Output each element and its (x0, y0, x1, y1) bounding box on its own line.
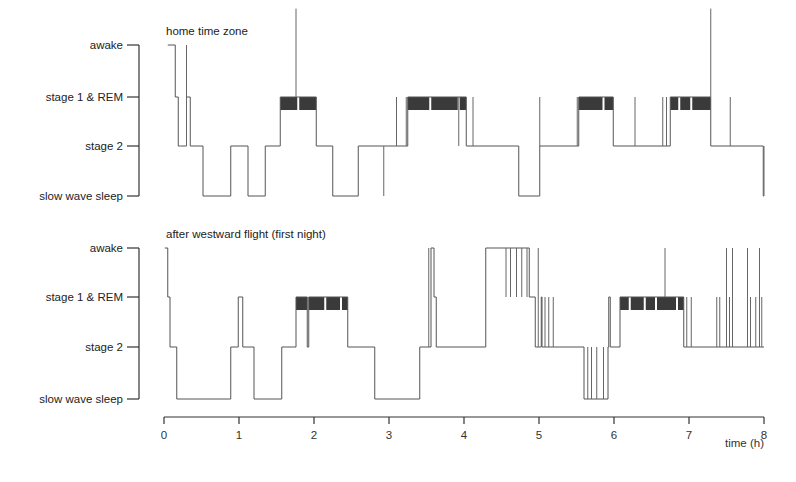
rem-gap (676, 297, 678, 310)
hypnogram-chart: home time zone awakestage 1 & REMstage 2… (0, 0, 796, 482)
rem-gap (678, 97, 680, 110)
y-axis: awakestage 1 & REMstage 2slow wave sleep (39, 39, 139, 202)
rem-gap (297, 97, 299, 110)
y-level-label: awake (90, 242, 123, 254)
y-level-label: stage 2 (85, 341, 123, 353)
rem-gap (340, 297, 342, 310)
rem-blocks (296, 297, 684, 310)
x-axis: 012345678 time (h) (161, 417, 767, 449)
x-tick-label: 5 (536, 429, 542, 441)
x-tick-label: 2 (311, 429, 317, 441)
rem-gap (655, 297, 657, 310)
y-level-label: slow wave sleep (39, 393, 123, 405)
panel-title: home time zone (166, 25, 248, 37)
sleep-stage-trace (165, 248, 764, 399)
rem-blocks (280, 97, 711, 110)
y-level-label: stage 1 & REM (46, 91, 123, 103)
panel-title: after westward flight (first night) (166, 228, 326, 240)
x-tick-label: 3 (386, 429, 392, 441)
x-tick-label: 4 (461, 429, 468, 441)
stage-step-line (165, 248, 764, 399)
panel-after-westward-flight: after westward flight (first night) awak… (39, 228, 764, 405)
rem-gap (324, 297, 326, 310)
rem-gap (603, 97, 605, 110)
rem-block (408, 97, 467, 110)
x-tick-label: 0 (161, 429, 167, 441)
x-tick-label: 7 (686, 429, 692, 441)
x-axis-label: time (h) (725, 437, 764, 449)
stage-step-line (168, 45, 764, 196)
x-tick-label: 1 (236, 429, 242, 441)
rem-gap (644, 297, 646, 310)
y-axis: awakestage 1 & REMstage 2slow wave sleep (39, 242, 139, 405)
y-level-label: stage 1 & REM (46, 291, 123, 303)
x-tick-label: 6 (611, 429, 617, 441)
rem-block (579, 97, 614, 110)
panel-home-time-zone: home time zone awakestage 1 & REMstage 2… (39, 9, 764, 202)
rem-gap (629, 297, 631, 310)
rem-gap (690, 97, 692, 110)
y-level-label: stage 2 (85, 140, 123, 152)
y-level-label: slow wave sleep (39, 190, 123, 202)
rem-gap (429, 97, 431, 110)
x-ticks: 012345678 (161, 417, 767, 441)
y-level-label: awake (90, 39, 123, 51)
rem-block (296, 297, 307, 310)
